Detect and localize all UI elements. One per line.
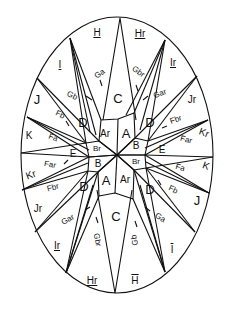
label-spike-bottom-right-g: Gb bbox=[130, 234, 140, 246]
label-upper-left-b: Br bbox=[93, 145, 101, 153]
lower-left-b bbox=[88, 155, 117, 172]
label-rim-bottom-left: Hr bbox=[87, 276, 98, 286]
label-rim-right-j: Jr bbox=[188, 95, 196, 105]
upper-left-b bbox=[86, 141, 117, 157]
spike-line bbox=[21, 153, 89, 157]
label-top-c: C bbox=[113, 92, 122, 105]
label-rim-top-right: Hr bbox=[135, 29, 146, 39]
spike-line bbox=[148, 76, 197, 141]
label-rim-upper-right-i: Ir bbox=[170, 58, 176, 68]
label-lower-right-a: Ar bbox=[120, 175, 130, 185]
spike-line bbox=[145, 155, 213, 157]
label-lower-right-d: D bbox=[145, 183, 154, 196]
label-rim-upper-left-i: I bbox=[59, 60, 62, 70]
tick-mark bbox=[135, 221, 137, 227]
tick-mark bbox=[66, 121, 69, 126]
label-rim-lower-left-i: Ir bbox=[54, 241, 60, 251]
tick-mark bbox=[162, 126, 167, 128]
tick-mark bbox=[143, 96, 148, 100]
label-upper-right-e: E bbox=[159, 145, 166, 155]
label-lower-left-a: A bbox=[102, 174, 111, 187]
tick-mark bbox=[100, 80, 102, 86]
label-upper-right-d: D bbox=[145, 116, 154, 129]
label-upper-left-d: D bbox=[78, 116, 87, 129]
label-lower-left-b: B bbox=[95, 159, 102, 169]
label-rim-top-left: H bbox=[93, 28, 100, 38]
label-upper-left-e: E bbox=[70, 149, 77, 159]
label-rim-lower-right-j: J bbox=[194, 194, 201, 207]
lower-center-divider bbox=[115, 155, 117, 193]
tick-mark bbox=[64, 160, 68, 164]
upper-center-divider bbox=[117, 119, 118, 155]
label-upper-left-a: Ar bbox=[100, 129, 110, 139]
label-rim-left-k: K bbox=[26, 131, 33, 141]
tick-mark bbox=[96, 217, 98, 223]
label-upper-right-a: A bbox=[122, 127, 131, 140]
label-lower-left-d: D bbox=[79, 180, 88, 193]
diagram-lines bbox=[0, 0, 228, 313]
label-rim-left-j: J bbox=[34, 93, 41, 106]
label-lower-right-b: Br bbox=[132, 158, 140, 166]
tick-mark bbox=[136, 85, 138, 91]
label-spike-bottom-left-g: Gbr bbox=[92, 233, 102, 248]
label-upper-right-b: B bbox=[133, 141, 140, 151]
label-rim-lower-left-j: Jr bbox=[34, 204, 42, 214]
label-rim-lower-right-i: I bbox=[171, 243, 174, 253]
label-rim-bottom-right: H bbox=[131, 274, 138, 284]
star-ellipse-diagram: Ar A Br B B Br A Ar C C D D D D E E E E … bbox=[0, 0, 228, 313]
label-bottom-c: C bbox=[111, 210, 120, 223]
